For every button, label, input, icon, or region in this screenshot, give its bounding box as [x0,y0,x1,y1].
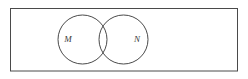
universal-set-rectangle [11,9,238,72]
set-label-n: N [133,34,141,44]
set-circle-n [99,15,148,64]
set-label-m: M [63,34,72,44]
venn-diagram-figure: M N [0,0,248,79]
venn-diagram-canvas: M N [0,0,248,79]
